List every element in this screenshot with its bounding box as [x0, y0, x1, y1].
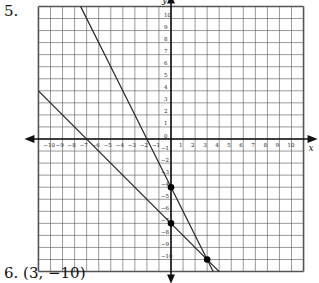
svg-text:−9: −9	[161, 241, 170, 247]
svg-text:−8: −8	[161, 229, 170, 235]
svg-text:−5: −5	[161, 193, 170, 199]
svg-text:−6: −6	[161, 205, 170, 211]
svg-text:−3: −3	[128, 142, 137, 148]
svg-text:2: 2	[164, 108, 168, 114]
svg-text:7: 7	[251, 142, 255, 148]
svg-text:9: 9	[275, 142, 279, 148]
svg-text:5: 5	[227, 142, 231, 148]
svg-text:4: 4	[164, 84, 168, 90]
svg-text:3: 3	[164, 96, 168, 102]
svg-text:10: 10	[164, 12, 171, 18]
svg-text:y: y	[161, 0, 168, 5]
svg-text:9: 9	[164, 24, 168, 30]
svg-text:−1: −1	[152, 142, 160, 148]
line-2	[38, 91, 219, 272]
data-point	[168, 184, 175, 191]
svg-text:8: 8	[263, 142, 267, 148]
svg-text:−10: −10	[44, 142, 56, 148]
svg-text:4: 4	[215, 142, 219, 148]
svg-text:6: 6	[239, 142, 243, 148]
svg-text:−7: −7	[80, 142, 89, 148]
svg-text:−4: −4	[116, 142, 125, 148]
svg-text:10: 10	[288, 142, 295, 148]
svg-text:3: 3	[203, 142, 207, 148]
svg-text:5: 5	[164, 72, 168, 78]
svg-text:−8: −8	[68, 142, 77, 148]
svg-text:−1: −1	[161, 145, 169, 151]
coordinate-graph: xy −10−9−8−7−6−5−4−3−2−11234567891010987…	[0, 0, 319, 283]
svg-text:−2: −2	[140, 142, 148, 148]
answer-text: 6. (3, −10)	[4, 264, 86, 282]
svg-text:x: x	[309, 143, 314, 153]
svg-text:0: 0	[164, 133, 168, 139]
svg-text:8: 8	[164, 36, 168, 42]
data-point	[168, 220, 175, 227]
svg-text:1: 1	[164, 120, 168, 126]
svg-text:−2: −2	[161, 157, 169, 163]
svg-text:−10: −10	[161, 253, 173, 259]
svg-text:7: 7	[164, 48, 168, 54]
svg-text:2: 2	[191, 142, 195, 148]
svg-text:−5: −5	[104, 142, 113, 148]
svg-text:1: 1	[179, 142, 183, 148]
svg-text:−9: −9	[56, 142, 65, 148]
svg-text:6: 6	[164, 60, 168, 66]
data-point	[204, 256, 211, 263]
